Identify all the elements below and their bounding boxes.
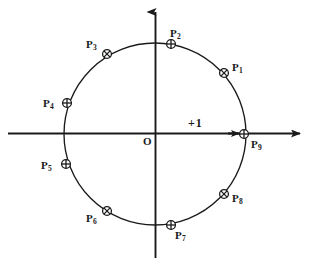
marker-P8[interactable] — [220, 190, 229, 199]
marker-P4[interactable] — [63, 99, 72, 108]
point-label-P6: P6 — [86, 213, 97, 224]
marker-P6[interactable] — [103, 207, 112, 216]
point-label-P5: P5 — [41, 160, 52, 171]
point-label-P8: P8 — [232, 193, 243, 204]
unit-marker-label: +1 — [188, 117, 203, 129]
origin-label: O — [143, 136, 152, 147]
unit-circle-diagram — [0, 0, 311, 267]
marker-P5[interactable] — [62, 160, 71, 169]
point-label-P1: P1 — [232, 62, 243, 73]
point-label-P2: P2 — [170, 28, 181, 39]
marker-P2[interactable] — [167, 40, 176, 49]
point-label-P3: P3 — [86, 39, 97, 50]
point-label-P4: P4 — [43, 98, 54, 109]
point-label-P9: P9 — [251, 139, 262, 150]
figure-canvas: P1 P2 P3 P4 P5 P6 P7 P8 P9 O +1 — [0, 0, 311, 267]
marker-P3[interactable] — [103, 50, 112, 59]
marker-P9[interactable] — [240, 130, 249, 139]
point-label-P7: P7 — [175, 230, 186, 241]
marker-P1[interactable] — [220, 69, 229, 78]
